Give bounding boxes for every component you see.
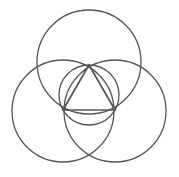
inscribed-circle xyxy=(59,65,119,125)
three-circles-triangle-diagram xyxy=(0,0,179,177)
top-circle xyxy=(37,10,141,114)
